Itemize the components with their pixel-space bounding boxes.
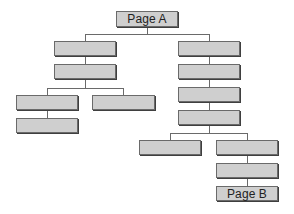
node-left-3a — [16, 95, 78, 110]
connector — [123, 88, 124, 95]
node-left-1 — [54, 41, 116, 56]
connector — [170, 133, 171, 140]
node-left-2 — [54, 64, 116, 79]
node-left-3b — [92, 95, 155, 110]
node-right-3 — [178, 87, 240, 102]
connector — [47, 88, 124, 89]
node-page-b: Page B — [216, 186, 278, 201]
connector — [209, 125, 210, 133]
node-right-5a — [139, 140, 201, 155]
connector — [85, 79, 86, 88]
connector — [85, 34, 210, 35]
node-right-2 — [178, 64, 240, 79]
connector — [209, 34, 210, 41]
connector — [85, 56, 86, 64]
node-page-a: Page A — [116, 11, 178, 27]
connector — [247, 178, 248, 186]
connector — [209, 79, 210, 87]
node-right-4 — [178, 110, 240, 125]
connector — [247, 133, 248, 140]
connector — [170, 133, 248, 134]
node-right-5b — [216, 140, 278, 155]
connector — [209, 56, 210, 64]
connector — [209, 102, 210, 110]
connector — [147, 27, 148, 34]
node-right-1 — [178, 41, 240, 56]
connector — [85, 34, 86, 41]
connector — [247, 155, 248, 163]
connector — [47, 110, 48, 118]
connector — [47, 88, 48, 95]
node-left-4a — [16, 118, 78, 133]
node-right-6b — [216, 163, 278, 178]
